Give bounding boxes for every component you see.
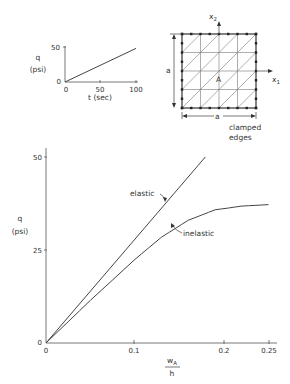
vertical-dim-label: a	[166, 66, 171, 75]
node-dot	[181, 88, 183, 90]
main-xtick-0.1: 0.1	[128, 347, 139, 355]
inset-ytick-50: 50	[51, 44, 60, 52]
main-ylabel-q: q	[18, 214, 23, 223]
node-dot	[255, 79, 257, 81]
node-dot	[181, 107, 183, 109]
mesh-grid	[182, 34, 256, 108]
node-dot	[209, 33, 211, 35]
main-chart: 50 25 0 0 0.1 0.2 0.25 q (psi) wA h elas…	[12, 148, 277, 378]
main-xtick-0.2: 0.2	[218, 347, 229, 355]
mesh-line	[238, 53, 257, 72]
mesh-line	[219, 34, 238, 53]
main-ylabel-unit: (psi)	[12, 227, 29, 236]
mesh-line	[182, 34, 201, 53]
node-dot	[255, 51, 257, 53]
node-dot	[199, 33, 201, 35]
inset-ylabel-q: q	[36, 53, 41, 62]
mesh-line	[219, 90, 238, 109]
node-dot	[181, 42, 183, 44]
node-dot	[246, 107, 248, 109]
mesh-line	[238, 90, 257, 109]
mesh-line	[201, 90, 220, 109]
x1-label: x1	[272, 75, 280, 85]
mesh-line	[201, 53, 220, 72]
node-dot	[255, 107, 257, 109]
node-dot	[181, 79, 183, 81]
inelastic-curve	[46, 205, 269, 343]
x2-arrow-icon	[217, 21, 221, 26]
node-dot	[190, 107, 192, 109]
main-xlabel-numerator: wA	[167, 356, 177, 366]
node-dot	[255, 98, 257, 100]
node-dot	[236, 107, 238, 109]
node-dot	[255, 61, 257, 63]
mesh-line	[219, 71, 238, 90]
node-dot	[227, 33, 229, 35]
elastic-curve	[46, 157, 205, 343]
node-dot	[209, 107, 211, 109]
dim-arrow-right-icon	[251, 114, 256, 118]
mesh-line	[201, 34, 220, 53]
horizontal-dim-label: a	[215, 112, 220, 121]
node-dot	[236, 33, 238, 35]
node-dot	[255, 88, 257, 90]
inelastic-annotation: inelastic	[183, 229, 214, 238]
inelastic-leader-arrow-icon	[171, 223, 175, 228]
plate-mesh: x1 x2 A a a clamped edges	[166, 12, 280, 142]
node-dot	[190, 33, 192, 35]
inset-xtick-100: 100	[129, 86, 142, 94]
mesh-line	[238, 34, 257, 53]
main-xtick-0: 0	[44, 347, 48, 355]
node-dot	[199, 107, 201, 109]
inset-ytick-0: 0	[57, 78, 61, 86]
mesh-line	[182, 90, 201, 109]
mesh-line	[182, 53, 201, 72]
node-dot	[181, 51, 183, 53]
node-dot	[255, 42, 257, 44]
x1-arrow-icon	[268, 69, 273, 73]
inset-xtick-0: 0	[64, 86, 68, 94]
mesh-line	[238, 71, 257, 90]
point-a-label: A	[216, 75, 222, 84]
node-dot	[181, 61, 183, 63]
node-dot	[227, 107, 229, 109]
node-dot	[218, 107, 220, 109]
dim-arrow-up-icon	[172, 34, 176, 39]
mesh-line	[219, 53, 238, 72]
elastic-annotation: elastic	[130, 189, 154, 198]
main-ytick-25: 25	[33, 247, 42, 255]
dim-arrow-down-icon	[172, 103, 176, 108]
main-xtick-0.25: 0.25	[261, 347, 277, 355]
inset-load-line	[65, 48, 136, 82]
mesh-line	[182, 71, 201, 90]
node-dot	[181, 70, 183, 72]
node-dot	[181, 98, 183, 100]
main-ytick-50: 50	[33, 154, 42, 162]
figure: 50 0 0 50 100 t (sec) q (psi) x1 x2 A a	[0, 0, 290, 384]
node-dot	[246, 33, 248, 35]
node-dot	[255, 33, 257, 35]
main-ytick-0: 0	[38, 339, 42, 347]
inset-xlabel: t (sec)	[88, 93, 112, 102]
inset-ylabel-unit: (psi)	[30, 65, 47, 74]
note-edges: edges	[229, 133, 252, 142]
dim-arrow-left-icon	[182, 114, 187, 118]
main-xlabel-denominator: h	[170, 369, 175, 378]
note-clamped: clamped	[229, 123, 261, 132]
x2-label: x2	[209, 12, 217, 22]
inset-load-chart: 50 0 0 50 100 t (sec) q (psi)	[30, 44, 143, 102]
elastic-leader-arrow-icon	[163, 197, 167, 202]
